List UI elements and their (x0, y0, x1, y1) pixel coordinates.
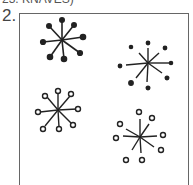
star-hollow-connected-icon (36, 89, 81, 132)
star-figures (0, 0, 193, 185)
star-filled-connected-icon (41, 18, 86, 62)
star-hollow-detached-icon (114, 110, 166, 163)
star-filled-detached-icon (118, 41, 172, 89)
